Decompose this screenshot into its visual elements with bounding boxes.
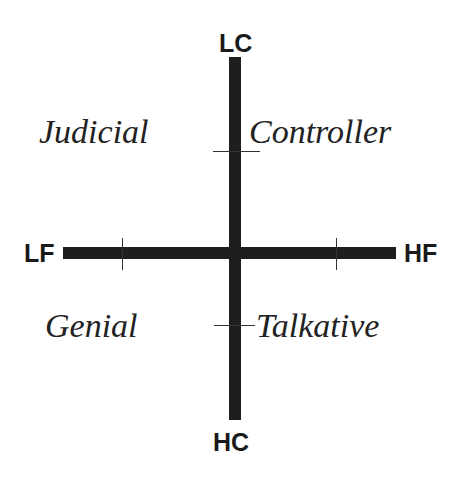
label-lc: LC	[219, 31, 252, 56]
tick-upper	[213, 151, 260, 152]
label-hc: HC	[213, 430, 249, 455]
tick-lower	[214, 325, 255, 326]
label-hf: HF	[404, 241, 437, 266]
tick-left	[122, 238, 123, 270]
horizontal-axis	[63, 247, 396, 259]
quadrant-controller: Controller	[249, 115, 391, 149]
vertical-axis	[229, 57, 241, 420]
quadrant-judicial: Judicial	[39, 115, 149, 149]
label-lf: LF	[24, 241, 55, 266]
quadrant-talkative: Talkative	[256, 309, 379, 343]
tick-right	[336, 238, 337, 270]
quadrant-genial: Genial	[45, 309, 138, 343]
